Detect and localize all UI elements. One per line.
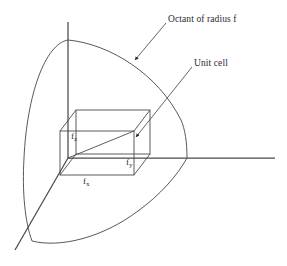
octant-arc-right (68, 40, 187, 158)
dimension-label-fy: fy (126, 157, 132, 167)
coordinate-axes (15, 22, 275, 250)
octant-arc-bottom (32, 158, 187, 243)
unit-cell-edge-top-right (134, 110, 150, 131)
dimension-label-fz: fz (71, 131, 77, 141)
dimension-label-fx: fx (83, 176, 89, 186)
octant-outline (23, 40, 187, 243)
figure-octant-unit-cell: Octant of radius f Unit cell fz fy fx (0, 0, 287, 266)
diagram-canvas (0, 0, 287, 266)
unit-cell-box (60, 110, 150, 175)
fy-subscript: y (129, 161, 132, 168)
fz-subscript: z (74, 135, 77, 142)
unit-cell-callout-label: Unit cell (194, 58, 228, 68)
unit-cell-edge-bottom-right (134, 154, 150, 175)
unit-cell-back-face (76, 110, 150, 154)
fx-subscript: x (86, 180, 89, 187)
octant-arc-left (23, 40, 68, 241)
callout-leaders (135, 23, 192, 137)
octant-leader-line (135, 23, 166, 60)
octant-callout-label: Octant of radius f (168, 14, 237, 24)
